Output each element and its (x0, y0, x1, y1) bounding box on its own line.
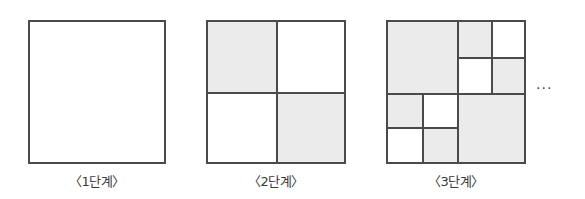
stage-3-sub-tr-bottom-right-shaded (491, 58, 524, 93)
stage-3-sub-tr-horizontal-divider (457, 57, 524, 59)
stage-1-square (28, 20, 166, 164)
stage-1-label: 〈1단계〉 (28, 171, 166, 190)
stage-3-sub-bl-top-left-shaded (388, 93, 423, 128)
stage-2-cell-bottom-right-shaded (276, 92, 344, 162)
stage-2-square (206, 20, 346, 164)
stage-2-horizontal-divider (208, 92, 344, 94)
stage-3-square (386, 20, 526, 164)
stage-3-sub-tr-top-left-shaded (457, 22, 491, 58)
stage-3-label: 〈3단계〉 (386, 171, 526, 190)
continuation-ellipsis: ··· (536, 80, 552, 96)
stage-2-cell-top-left-shaded (208, 22, 276, 92)
stage-3-quadrant-bottom-right-shaded (457, 93, 524, 162)
stage-3-sub-bl-bottom-right-shaded (423, 128, 457, 162)
stage-3-quadrant-top-left-shaded (388, 22, 457, 93)
stage-3-horizontal-divider (388, 93, 524, 95)
stage-3-sub-bl-horizontal-divider (388, 127, 457, 129)
stage-2-label: 〈2단계〉 (206, 171, 346, 190)
stage-3-vertical-divider (457, 22, 459, 162)
